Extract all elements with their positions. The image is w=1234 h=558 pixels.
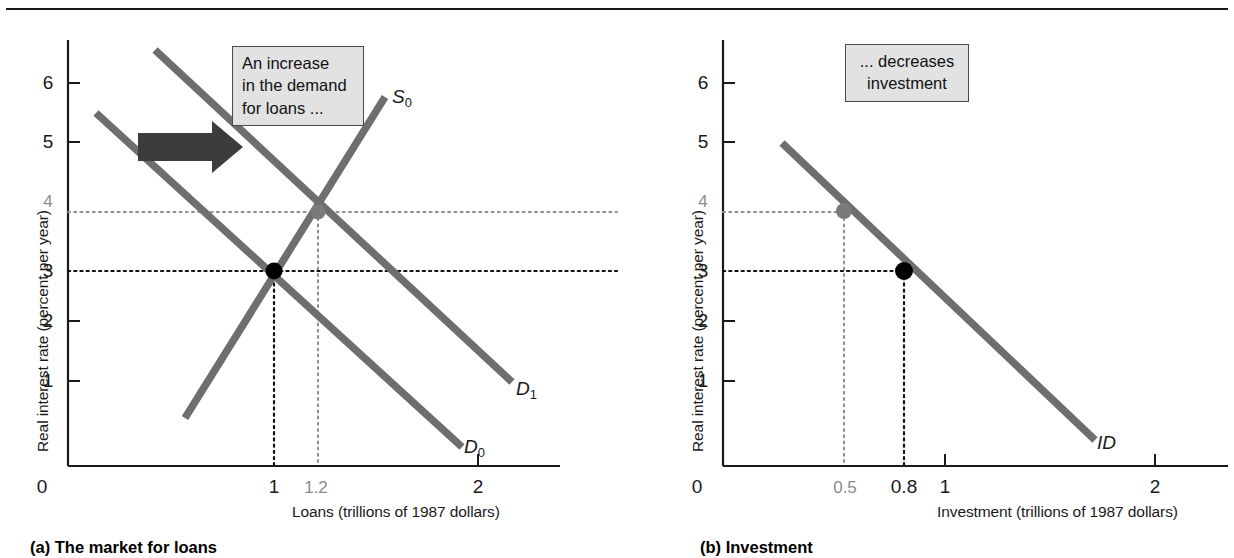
panel-a-xlabel-1p2: 1.2	[296, 478, 336, 498]
panel-b-ylabel-6: 6	[693, 72, 713, 94]
curve-label-d1-sub: 1	[530, 387, 537, 402]
panel-b-caption: (b) Investment	[700, 538, 813, 557]
curve-label-s0-sub: 0	[405, 95, 412, 110]
figure-root: Real interest rate (percent per year) Lo…	[0, 0, 1234, 558]
panel-b: Real interest rate (percent per year) In…	[617, 0, 1234, 558]
panel-b-callout-box: ... decreases investment	[845, 44, 969, 102]
panel-a-xlabel-1: 1	[264, 476, 284, 498]
panel-a-origin-label: 0	[32, 476, 52, 498]
panel-b-xlabel-0p5: 0.5	[825, 478, 865, 498]
panel-a-xlabel-2: 2	[468, 476, 488, 498]
curve-label-id-main: ID	[1097, 432, 1116, 453]
curve-label-d0-sub: 0	[478, 445, 485, 460]
panel-a-ylabel-4: 4	[38, 192, 58, 212]
panel-b-ylabel-4: 4	[693, 192, 713, 212]
panel-b-ylabel-5: 5	[693, 131, 713, 153]
panel-a-callout-box: An increase in the demand for loans ...	[232, 46, 364, 126]
panel-a: Real interest rate (percent per year) Lo…	[0, 0, 617, 558]
panel-a-ylabel-6: 6	[38, 72, 58, 94]
panel-b-x-axis-title: Investment (trillions of 1987 dollars)	[937, 503, 1178, 521]
curve-label-s0-main: S	[392, 86, 405, 107]
curve-label-d1-main: D	[516, 378, 530, 399]
panel-a-ylabel-3: 3	[38, 260, 58, 282]
panel-b-xlabel-2: 2	[1145, 476, 1165, 498]
panel-a-caption: (a) The market for loans	[30, 538, 217, 557]
panel-a-curve-label-d0: D0	[464, 436, 485, 460]
panel-b-xlabel-1: 1	[935, 476, 955, 498]
panel-a-curve-label-s0: S0	[392, 86, 412, 110]
panel-a-ylabel-5: 5	[38, 131, 58, 153]
panel-b-curve-label-id: ID	[1097, 432, 1116, 454]
panel-a-ylabel-2: 2	[38, 310, 58, 332]
panel-b-origin-label: 0	[687, 476, 707, 498]
panel-a-ylabel-1: 1	[38, 370, 58, 392]
panel-b-ylabel-1: 1	[693, 370, 713, 392]
curve-label-d0-main: D	[464, 436, 478, 457]
panel-b-ylabel-2: 2	[693, 310, 713, 332]
panel-b-ylabel-3: 3	[693, 260, 713, 282]
panel-a-curve-label-d1: D1	[516, 378, 537, 402]
panel-a-x-axis-title: Loans (trillions of 1987 dollars)	[292, 503, 500, 521]
panel-b-xlabel-0p8: 0.8	[884, 476, 924, 498]
